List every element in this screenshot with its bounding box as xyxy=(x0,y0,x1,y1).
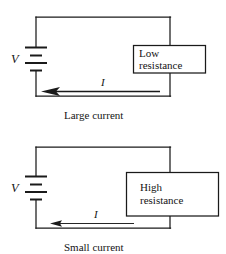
large-current-caption: Large current xyxy=(64,109,123,122)
low-resistance-label-line2: resistance xyxy=(139,59,182,72)
voltage-source-label-bottom: V xyxy=(11,181,19,196)
circuit-figure: V I Low resistance Large current V I Hig… xyxy=(0,0,226,254)
circuit-linework xyxy=(0,0,226,254)
voltage-source-label-top: V xyxy=(11,52,19,67)
small-current-caption: Small current xyxy=(64,241,124,254)
high-resistance-label-line2: resistance xyxy=(140,194,183,207)
current-label-bottom: I xyxy=(94,208,98,221)
current-label-top: I xyxy=(101,76,105,89)
high-resistance-label-line1: High xyxy=(140,181,162,194)
